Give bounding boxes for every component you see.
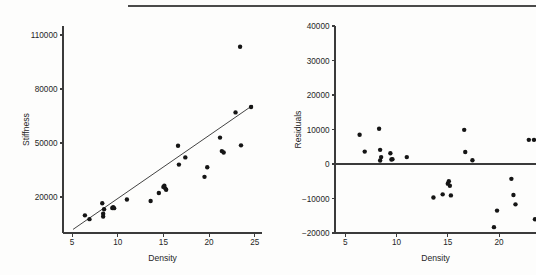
- data-point: [377, 127, 381, 131]
- x-tick-label: 15: [443, 238, 453, 247]
- y-tick-label: −10000: [302, 195, 330, 204]
- y-tick-label: 80000: [35, 85, 58, 94]
- data-point: [101, 214, 105, 218]
- data-point: [513, 202, 517, 206]
- data-point: [125, 197, 129, 201]
- data-point: [495, 208, 499, 212]
- data-point: [378, 148, 382, 152]
- data-point: [527, 138, 531, 142]
- data-point: [405, 155, 409, 159]
- data-point: [202, 175, 206, 179]
- data-point: [102, 207, 106, 211]
- data-point: [218, 135, 222, 139]
- figure-page: 200005000080000110000 510152025 Density …: [0, 0, 536, 275]
- data-point: [221, 150, 225, 154]
- data-point: [233, 110, 237, 114]
- data-point: [511, 193, 515, 197]
- data-point: [390, 157, 394, 161]
- y-axis-ticks-right: −20000−10000010000200003000040000: [302, 22, 335, 238]
- x-tick-label: 25: [250, 238, 260, 247]
- y-tick-label: 50000: [35, 139, 58, 148]
- y-axis-ticks-left: 200005000080000110000: [31, 31, 63, 202]
- y-axis-title-right: Residuals: [293, 111, 303, 149]
- data-point: [447, 179, 451, 183]
- data-points-right: [357, 127, 536, 230]
- data-point: [164, 188, 168, 192]
- data-point: [177, 162, 181, 166]
- residual-scatter-panel: −20000−10000010000200003000040000 510152…: [268, 0, 536, 275]
- data-point: [238, 45, 242, 49]
- data-point: [440, 192, 444, 196]
- data-point: [100, 201, 104, 205]
- x-tick-label: 5: [70, 238, 75, 247]
- y-tick-label: 10000: [307, 126, 330, 135]
- y-tick-label: 40000: [307, 22, 330, 31]
- data-point: [249, 105, 253, 109]
- x-axis-title-left: Density: [148, 253, 177, 263]
- data-point: [363, 149, 367, 153]
- y-axis-title-left: Stiffness: [21, 113, 31, 146]
- y-tick-label: 0: [325, 160, 330, 169]
- data-point: [176, 144, 180, 148]
- x-tick-label: 10: [392, 238, 402, 247]
- y-tick-label: 20000: [35, 193, 58, 202]
- data-point: [83, 213, 87, 217]
- data-point: [205, 165, 209, 169]
- stiffness-scatter-panel: 200005000080000110000 510152025 Density …: [0, 0, 268, 275]
- y-tick-label: 110000: [31, 31, 58, 40]
- data-point: [87, 217, 91, 221]
- x-tick-label: 20: [495, 238, 505, 247]
- data-point: [431, 195, 435, 199]
- data-point: [112, 206, 116, 210]
- x-axis-ticks-left: 510152025: [70, 233, 260, 247]
- x-tick-label: 15: [159, 238, 169, 247]
- data-point: [148, 199, 152, 203]
- regression-line: [73, 105, 253, 229]
- data-point: [388, 151, 392, 155]
- data-points-left: [83, 45, 254, 222]
- data-point: [449, 193, 453, 197]
- data-point: [357, 132, 361, 136]
- y-tick-label: −20000: [302, 229, 330, 238]
- x-tick-label: 20: [205, 238, 215, 247]
- data-point: [492, 225, 496, 229]
- data-point: [463, 150, 467, 154]
- data-point: [379, 155, 383, 159]
- data-point: [462, 128, 466, 132]
- data-point: [183, 155, 187, 159]
- y-tick-label: 30000: [307, 57, 330, 66]
- data-point: [532, 138, 536, 142]
- x-axis-ticks-right: 5101520: [343, 233, 504, 247]
- x-axis-title-right: Density: [421, 253, 450, 263]
- stiffness-scatter-svg: 200005000080000110000 510152025 Density …: [0, 0, 268, 275]
- residual-scatter-svg: −20000−10000010000200003000040000 510152…: [268, 0, 536, 275]
- x-tick-label: 10: [113, 238, 123, 247]
- y-tick-label: 20000: [307, 91, 330, 100]
- data-point: [448, 184, 452, 188]
- data-point: [239, 143, 243, 147]
- data-point: [509, 177, 513, 181]
- data-point: [470, 158, 474, 162]
- x-tick-label: 5: [343, 238, 348, 247]
- data-point: [157, 191, 161, 195]
